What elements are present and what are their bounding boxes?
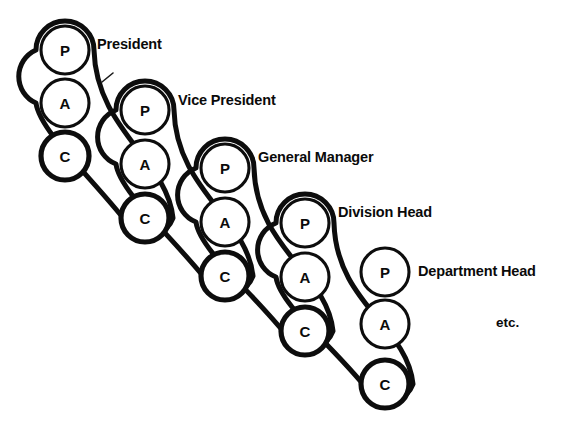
- node-president-p: P: [41, 26, 89, 74]
- label-group-president: President: [97, 36, 162, 52]
- node-department-head-c: C: [361, 360, 409, 408]
- node-president-c-letter: C: [60, 148, 71, 165]
- node-vice-president-p-letter: P: [140, 102, 150, 119]
- node-department-head-a: A: [361, 300, 409, 348]
- node-division-head-c-letter: C: [300, 323, 311, 340]
- node-division-head-p: P: [281, 199, 329, 247]
- diagram-canvas: PACPACPACPACPAC PresidentVice PresidentG…: [0, 0, 567, 443]
- node-president-a: A: [41, 79, 89, 127]
- node-president-a-letter: A: [60, 95, 71, 112]
- node-division-head-c: C: [281, 307, 329, 355]
- node-department-head-c-letter: C: [380, 376, 391, 393]
- node-president-p-letter: P: [60, 42, 70, 59]
- node-vice-president-a: A: [121, 140, 169, 188]
- label-group-department-head: Department Head: [418, 263, 536, 279]
- node-department-head-a-letter: A: [380, 316, 391, 333]
- node-division-head-a-letter: A: [300, 269, 311, 286]
- node-vice-president-p: P: [121, 86, 169, 134]
- node-department-head-p: P: [361, 248, 409, 296]
- label-group-general-manager: General Manager: [258, 149, 374, 165]
- node-department-head-p-letter: P: [380, 264, 390, 281]
- node-general-manager-a: A: [201, 198, 249, 246]
- node-vice-president-c-letter: C: [140, 210, 151, 227]
- node-vice-president-c: C: [121, 194, 169, 242]
- node-vice-president-a-letter: A: [140, 156, 151, 173]
- node-general-manager-p: P: [201, 144, 249, 192]
- node-general-manager-c-letter: C: [220, 268, 231, 285]
- label-group-vice-president: Vice President: [178, 92, 276, 108]
- etc-note: etc.: [496, 315, 519, 330]
- label-group-division-head: Division Head: [338, 204, 432, 220]
- node-president-c: C: [41, 132, 89, 180]
- node-division-head-a: A: [281, 253, 329, 301]
- node-general-manager-a-letter: A: [220, 214, 231, 231]
- node-general-manager-p-letter: P: [220, 160, 230, 177]
- node-general-manager-c: C: [201, 252, 249, 300]
- node-division-head-p-letter: P: [300, 215, 310, 232]
- linking-pin-diagram: PACPACPACPACPAC PresidentVice PresidentG…: [0, 0, 567, 443]
